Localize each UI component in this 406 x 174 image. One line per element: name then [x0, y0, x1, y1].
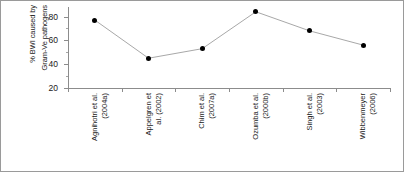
series-line [68, 7, 390, 89]
x-tick-label: Chim et al.(2007a) [197, 93, 223, 173]
x-tick-label: Ozumba et al.(2000b) [251, 93, 277, 173]
x-tick [390, 88, 391, 92]
y-tick-label: 40 [49, 59, 58, 69]
x-tick-label-line: (2007a) [207, 93, 217, 173]
data-point [146, 56, 151, 61]
x-tick-label: Agnihotri et al.(2004a) [90, 93, 116, 173]
data-point [200, 46, 205, 51]
x-tick-label-line: al. (2002) [153, 93, 163, 173]
y-tick-label: 20 [49, 83, 58, 93]
x-tick-label-line: Ozumba et al. [251, 93, 261, 173]
x-tick-label: Wibbenmeyer(2006) [358, 93, 384, 173]
y-axis-title-line-1: % BWI caused by [27, 5, 39, 91]
y-axis-title: % BWI caused by Gram-Ve pathogens [15, 5, 51, 91]
y-tick-label: 60 [49, 35, 58, 45]
x-axis-tick-labels: Agnihotri et al.(2004a)Appelgren etal. (… [68, 93, 390, 173]
figure-panel: % BWI caused by Gram-Ve pathogens 204060… [0, 0, 404, 172]
x-tick-label: Singh et al.(2003) [305, 93, 331, 173]
data-point [92, 18, 97, 23]
x-tick-label-line: (2006) [368, 93, 378, 173]
y-tick-label: 80 [49, 12, 58, 22]
data-point [361, 43, 366, 48]
x-tick-label-line: Agnihotri et al. [90, 93, 100, 173]
x-tick-label-line: (2003) [314, 93, 324, 173]
x-tick-label-line: Appelgren et [144, 93, 154, 173]
plot-area: 20406080 [68, 7, 390, 89]
x-tick-label-line: Wibbenmeyer [358, 93, 368, 173]
x-tick-label: Appelgren etal. (2002) [144, 93, 170, 173]
x-tick-label-line: Chim et al. [197, 93, 207, 173]
x-tick-label-line: (2000b) [260, 93, 270, 173]
x-tick-label-line: Singh et al. [305, 93, 315, 173]
x-tick-label-line: (2004a) [99, 93, 109, 173]
